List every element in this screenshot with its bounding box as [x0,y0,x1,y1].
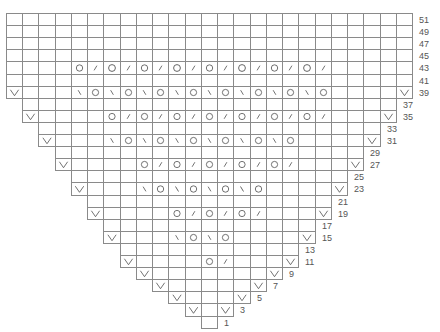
chart-cell [315,61,332,75]
chart-cell [347,158,364,171]
row-number-label: 5 [257,293,262,303]
chart-cell [315,207,332,220]
chart-cell [217,61,234,75]
chart-cell [266,182,283,196]
row-number-label: 29 [370,148,380,158]
chart-cell [22,61,39,75]
chart-cell [266,267,283,280]
chart-cell [347,61,364,75]
row-number-label: 43 [419,63,429,73]
chart-cell [363,134,381,147]
row-number-label: 3 [240,305,245,315]
row-number-label: 23 [354,184,364,194]
row-number-label: 41 [419,76,429,86]
chart-cell [6,61,23,75]
chart-cell [87,207,104,220]
chart-cell [201,316,218,329]
row-number-label: 35 [403,112,413,122]
row-number-label: 47 [419,39,429,49]
chart-cell [298,231,316,244]
chart-cell [6,86,23,99]
chart-cell [152,182,169,196]
chart-cell [201,303,218,317]
chart-cell [168,61,186,75]
chart-cell [250,61,267,75]
chart-cell [380,110,397,123]
chart-cell [38,61,56,75]
chart-cell [396,61,413,75]
chart-cell [217,182,234,196]
row-number-label: 51 [419,15,429,25]
chart-cell [363,61,381,75]
chart-cell [331,61,348,75]
chart-cell [120,182,137,196]
chart-cell [120,61,137,75]
row-number-label: 27 [370,160,380,170]
row-number-label: 33 [387,124,397,134]
chart-cell [152,61,169,75]
row-number-label: 21 [338,197,348,207]
row-number-label: 31 [387,136,397,146]
chart-cell [120,255,137,268]
chart-cell [201,61,218,75]
chart-cell [103,231,121,244]
chart-cell [152,279,169,292]
row-number-label: 9 [289,269,294,279]
knitting-chart: 5149474543413937353331292725232119171513… [0,0,440,332]
chart-cell [298,182,316,196]
chart-cell [136,267,153,280]
chart-cell [38,134,56,147]
chart-cell [380,61,397,75]
chart-cell [87,182,104,196]
row-number-label: 45 [419,51,429,61]
row-number-label: 49 [419,27,429,37]
chart-cell [282,182,299,196]
chart-cell [71,182,88,196]
chart-cell [315,182,332,196]
chart-cell [250,279,267,292]
chart-cell [185,303,202,317]
row-number-label: 25 [354,172,364,182]
chart-cell [282,61,299,75]
chart-cell [331,182,348,196]
row-number-label: 11 [305,257,314,267]
chart-cell [250,182,267,196]
chart-cell [103,182,121,196]
chart-cell [185,182,202,196]
row-number-label: 15 [322,233,332,243]
chart-cell [233,61,251,75]
row-number-label: 13 [305,245,315,255]
row-number-label: 19 [338,209,348,219]
chart-cell [201,182,218,196]
chart-cell [87,61,104,75]
chart-cell [136,182,153,196]
row-number-label: 37 [403,100,413,110]
chart-cell [233,182,251,196]
chart-cell [185,61,202,75]
chart-cell [136,61,153,75]
row-number-label: 7 [273,281,278,291]
chart-cell [55,61,72,75]
chart-cell [266,61,283,75]
chart-cell [71,61,88,75]
chart-cell [298,61,316,75]
chart-cell [233,291,251,304]
chart-cell [168,182,186,196]
chart-cell [55,158,72,171]
chart-cell [22,110,39,123]
chart-cell [396,86,413,99]
chart-cell [168,291,186,304]
row-number-label: 17 [322,221,332,231]
chart-cell [103,61,121,75]
row-number-label: 39 [419,88,429,98]
chart-cell [282,255,299,268]
chart-cell [217,303,234,317]
row-number-label: 1 [224,318,229,328]
